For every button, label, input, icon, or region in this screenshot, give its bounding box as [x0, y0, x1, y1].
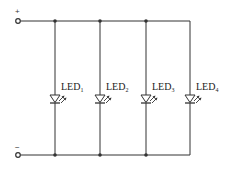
led-icon	[95, 95, 112, 103]
positive-sign: +	[15, 7, 20, 16]
junction-dot	[53, 153, 57, 157]
junction-dot	[98, 19, 102, 23]
led-icon	[50, 95, 67, 103]
light-arrow-icon	[104, 96, 112, 104]
light-arrow-icon	[150, 96, 158, 104]
led-branch-2: LED2	[95, 21, 128, 155]
led-branch-4: LED4	[185, 21, 218, 155]
led-icon	[141, 95, 158, 103]
led-branch-1: LED1	[50, 21, 83, 155]
led-branch-3: LED3	[141, 21, 174, 155]
junction-dot	[144, 19, 148, 23]
positive-terminal: +	[15, 7, 20, 23]
junction-dot	[98, 153, 102, 157]
circuit-diagram: + − LED1LED2LED3LED4	[0, 0, 239, 183]
terminal-circle-icon	[16, 153, 21, 158]
junction-dot	[53, 19, 57, 23]
negative-terminal: −	[15, 143, 20, 157]
led-label: LED1	[61, 81, 83, 93]
negative-sign: −	[15, 143, 20, 152]
led-label: LED4	[196, 81, 218, 93]
led-label: LED2	[106, 81, 128, 93]
junction-dot	[144, 153, 148, 157]
led-label: LED3	[152, 81, 174, 93]
led-icon	[185, 95, 202, 103]
terminal-circle-icon	[16, 19, 21, 24]
light-arrow-icon	[194, 96, 202, 104]
light-arrow-icon	[59, 96, 67, 104]
